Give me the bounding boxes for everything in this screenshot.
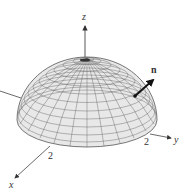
- x-axis: [15, 146, 50, 178]
- normal-vector-label: n: [151, 64, 157, 75]
- y-axis-label: y: [173, 134, 179, 145]
- z-axis-label: z: [81, 11, 86, 22]
- x-tick-label: 2: [48, 150, 53, 161]
- hemisphere-diagram: z: [0, 0, 182, 192]
- y-tick-label: 2: [144, 136, 149, 147]
- hemisphere-surface: [17, 57, 157, 147]
- y-axis-negative: [0, 91, 21, 98]
- y-axis: [150, 134, 171, 138]
- x-axis-label: x: [8, 179, 14, 190]
